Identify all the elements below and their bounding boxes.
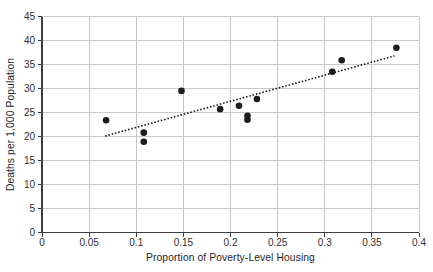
data-point [338,57,345,64]
y-tick-label: 0 [29,227,35,238]
data-point [103,117,110,124]
tick-marks [38,17,419,237]
y-tick-label: 40 [24,35,36,46]
y-axis-title: Deaths per 1,000 Population [5,58,16,191]
trend-line [105,56,394,136]
x-tick-label: 0.4 [412,237,426,248]
y-tick-label: 10 [24,179,36,190]
y-tick-label: 15 [24,155,36,166]
y-tick-label: 45 [24,11,36,22]
y-tick-label: 25 [24,107,36,118]
y-tick-labels: 051015202530354045 [24,11,36,238]
x-tick-label: 0.05 [79,237,99,248]
x-tick-label: 0.35 [362,237,382,248]
data-point [393,44,400,51]
x-tick-label: 0 [39,237,45,248]
data-point [140,129,147,136]
y-tick-label: 5 [29,203,35,214]
x-tick-labels: 00.050.10.150.20.250.30.350.4 [39,237,426,248]
gridlines [42,17,419,233]
y-tick-label: 20 [24,131,36,142]
x-tick-label: 0.2 [224,237,238,248]
data-point [217,106,224,113]
x-tick-label: 0.1 [129,237,143,248]
chart-figure: 00.050.10.150.20.250.30.350.4 0510152025… [0,0,433,272]
data-point [178,88,185,95]
data-point [236,102,243,109]
data-point [140,138,147,145]
data-point [329,68,336,75]
scatter-chart: 00.050.10.150.20.250.30.350.4 0510152025… [0,0,433,272]
data-points [103,44,400,145]
data-point [244,116,251,123]
y-tick-label: 35 [24,59,36,70]
x-tick-label: 0.3 [318,237,332,248]
y-tick-label: 30 [24,83,36,94]
x-axis-title: Proportion of Poverty-Level Housing [146,252,315,263]
x-tick-label: 0.15 [174,237,194,248]
data-point [254,96,261,103]
x-tick-label: 0.25 [268,237,288,248]
